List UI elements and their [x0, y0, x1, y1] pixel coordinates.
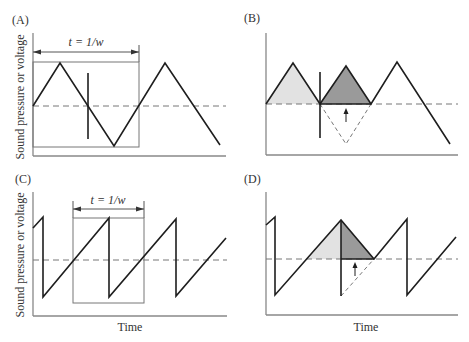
triangle-wave-a — [33, 63, 220, 146]
period-dimension-c: t = 1/w — [73, 193, 144, 218]
flip-arrow-icon — [344, 108, 349, 122]
panel-b: (B) — [244, 11, 458, 155]
x-axis-label-d: Time — [354, 320, 379, 334]
period-label-a: t = 1/w — [69, 35, 104, 49]
flip-arrow-icon — [353, 262, 358, 276]
period-box-a — [33, 62, 139, 147]
panel-label-b: (B) — [244, 11, 260, 25]
period-label-c: t = 1/w — [91, 193, 126, 207]
arrow-right-icon — [136, 207, 144, 212]
sawtooth-wave-c — [33, 217, 226, 297]
arrow-left-icon — [73, 207, 81, 212]
panel-label-c: (C) — [15, 172, 31, 186]
arrow-right-icon — [131, 50, 139, 55]
panel-d: (D) Time — [244, 172, 458, 334]
x-axis-label-c: Time — [118, 320, 143, 334]
shaded-area-light-b — [266, 63, 320, 104]
panel-c: (C) Sound pressure or voltage t = 1/w Ti… — [13, 172, 227, 334]
period-dimension-a: t = 1/w — [33, 35, 139, 62]
original-ramp-d — [341, 259, 374, 296]
arrow-left-icon — [33, 50, 41, 55]
y-axis-label-a: Sound pressure or voltage — [13, 35, 27, 160]
y-axis-label-c: Sound pressure or voltage — [13, 193, 27, 318]
panel-label-d: (D) — [244, 172, 261, 186]
panel-label-a: (A) — [12, 13, 29, 27]
shaded-area-dark-b — [320, 66, 371, 104]
figure-canvas: (A) Sound pressure or voltage t = 1/w (B… — [0, 0, 469, 342]
panel-a: (A) Sound pressure or voltage t = 1/w — [12, 13, 226, 159]
